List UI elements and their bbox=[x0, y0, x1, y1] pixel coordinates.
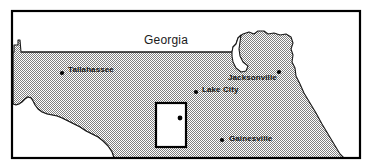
map-figure: Georgia Tallahassee Jacksonville Lake Ci… bbox=[0, 0, 372, 168]
city-label-tallahassee: Tallahassee bbox=[68, 66, 114, 74]
study-area-rectangle[interactable] bbox=[156, 103, 186, 147]
study-site-dot bbox=[178, 116, 183, 121]
city-dot-gainesville bbox=[220, 138, 224, 142]
region-label-georgia: Georgia bbox=[144, 34, 188, 46]
city-dot-lake-city bbox=[194, 90, 198, 94]
city-dot-tallahassee bbox=[60, 71, 64, 75]
city-dot-jacksonville bbox=[277, 70, 281, 74]
city-label-gainesville: Gainesville bbox=[229, 135, 272, 143]
city-label-lake-city: Lake City bbox=[202, 86, 238, 94]
map-canvas bbox=[0, 0, 372, 168]
city-label-jacksonville: Jacksonville bbox=[228, 74, 277, 82]
